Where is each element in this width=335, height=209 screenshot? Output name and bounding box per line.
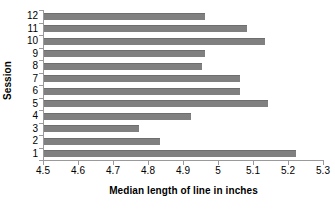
x-axis-tick-label: 5.1 <box>246 166 260 176</box>
x-axis-tick-label: 4.6 <box>71 166 85 176</box>
y-axis-tick-label: 12 <box>16 10 41 23</box>
x-axis-tick-label: 5 <box>215 166 221 176</box>
bar-row <box>44 98 324 111</box>
bar-row <box>44 23 324 36</box>
y-axis-tick-label: 1 <box>16 148 41 161</box>
bar-row <box>44 73 324 86</box>
y-axis-tick-label: 4 <box>16 110 41 123</box>
x-axis-tick-label: 5.3 <box>316 166 330 176</box>
y-axis-tick-label: 8 <box>16 60 41 73</box>
bar <box>44 100 268 107</box>
bar <box>44 75 240 82</box>
bar <box>44 38 265 45</box>
bar-row <box>44 148 324 161</box>
bar <box>44 125 139 132</box>
y-axis-tick-label: 2 <box>16 135 41 148</box>
bar <box>44 50 205 57</box>
bar-row <box>44 85 324 98</box>
bar <box>44 13 205 20</box>
bar-row <box>44 48 324 61</box>
bar-row <box>44 10 324 23</box>
x-axis-title: Median length of line in inches <box>43 185 324 196</box>
bar <box>44 88 240 95</box>
plot-area <box>43 10 324 161</box>
x-axis-tick-label: 5.2 <box>281 166 295 176</box>
bar-row <box>44 110 324 123</box>
y-axis-tick-labels: 121110987654321 <box>16 10 41 160</box>
bar-chart-figure: Session 121110987654321 4.54.64.74.84.95… <box>0 0 335 209</box>
x-axis-tick-label: 4.7 <box>106 166 120 176</box>
y-axis-tick-label: 6 <box>16 85 41 98</box>
x-axis-tick-label: 4.5 <box>36 166 50 176</box>
y-axis-title: Session <box>0 0 16 160</box>
x-axis-tick-label: 4.9 <box>176 166 190 176</box>
y-axis-title-text: Session <box>3 60 14 99</box>
x-axis-tick-labels: 4.54.64.74.84.955.15.25.3 <box>0 166 335 180</box>
bar-row <box>44 35 324 48</box>
y-axis-tick-label: 10 <box>16 35 41 48</box>
y-axis-tick-label: 5 <box>16 98 41 111</box>
y-axis-tick-label: 3 <box>16 123 41 136</box>
bar <box>44 63 202 70</box>
bar-row <box>44 60 324 73</box>
y-axis-tick-label: 7 <box>16 73 41 86</box>
bar <box>44 138 160 145</box>
y-axis-tick-label: 9 <box>16 48 41 61</box>
bar-row <box>44 135 324 148</box>
bar <box>44 113 191 120</box>
bar <box>44 150 296 157</box>
y-axis-tick-label: 11 <box>16 23 41 36</box>
x-axis-tick-label: 4.8 <box>141 166 155 176</box>
bars-layer <box>44 10 324 160</box>
bar <box>44 25 247 32</box>
bar-row <box>44 123 324 136</box>
